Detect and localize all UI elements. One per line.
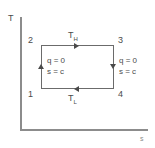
y-axis-label: T [8,14,14,23]
state-point-label-4: 4 [118,90,123,99]
state-point-label-2: 2 [28,36,33,45]
left-process-entropy-line: s = c [47,66,65,77]
right-process-heat-line: q = 0 [119,55,137,66]
high-temperature-label: TH [68,31,78,42]
arrow-down-icon [110,64,116,69]
x-axis-label: s [140,135,144,142]
arrow-left-icon [74,86,79,92]
right-process-entropy-line: s = c [119,66,137,77]
y-axis-line [20,17,22,131]
right-process-annotation: q = 0 s = c [119,55,137,77]
high-temperature-subscript: H [74,36,78,42]
ts-diagram-figure: T s 1 2 3 4 TH TL q = 0 s = c q = 0 s = … [0,0,155,148]
left-process-heat-line: q = 0 [47,55,65,66]
x-axis-line [20,129,148,131]
arrow-right-icon [74,43,79,49]
low-temperature-label: TL [68,94,77,105]
state-point-label-3: 3 [118,36,123,45]
state-point-label-1: 1 [28,90,33,99]
low-temperature-subscript: L [74,99,77,105]
arrow-up-icon [38,64,44,69]
left-process-annotation: q = 0 s = c [47,55,65,77]
